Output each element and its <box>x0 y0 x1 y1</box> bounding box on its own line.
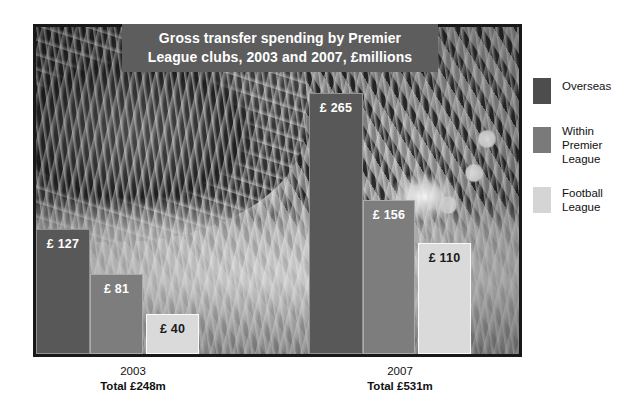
plot-area: £ 127 £ 81 £ 40 £ 265 £ 156 £ 110 <box>33 24 522 357</box>
bar-2007-overseas[interactable]: £ 265 <box>309 93 363 354</box>
chart-figure: £ 127 £ 81 £ 40 £ 265 £ 156 £ 110 Gross … <box>0 0 641 407</box>
legend-swatch-football-league <box>533 187 551 213</box>
bar-2007-football-league[interactable]: £ 110 <box>418 243 471 354</box>
bar-label-2003-within-premier-league: £ 81 <box>91 282 142 296</box>
legend-swatch-overseas <box>533 78 551 104</box>
legend: Overseas Within Premier League Football … <box>533 78 639 233</box>
legend-item-football-league[interactable]: Football League <box>533 185 639 214</box>
category-total-2003: Total £248m <box>43 379 223 394</box>
legend-label-within-premier-league: Within Premier League <box>562 123 602 166</box>
bar-2003-within-premier-league[interactable]: £ 81 <box>90 274 143 354</box>
bar-label-2007-overseas: £ 265 <box>310 101 362 115</box>
category-total-2007: Total £531m <box>310 379 490 394</box>
bar-label-2007-football-league: £ 110 <box>419 251 470 265</box>
category-label-2003: 2003 Total £248m <box>43 364 223 394</box>
chart-title-line-2: League clubs, 2003 and 2007, £millions <box>148 48 412 67</box>
legend-swatch-within-premier-league <box>533 127 551 153</box>
bar-label-2003-overseas: £ 127 <box>37 237 89 251</box>
legend-label-football-league: Football League <box>562 185 603 214</box>
category-year-2007: 2007 <box>310 364 490 379</box>
legend-item-overseas[interactable]: Overseas <box>533 78 639 104</box>
chart-title-line-1: Gross transfer spending by Premier <box>159 29 401 48</box>
bar-2003-football-league[interactable]: £ 40 <box>146 314 199 354</box>
chart-title: Gross transfer spending by Premier Leagu… <box>122 24 438 72</box>
legend-label-overseas: Overseas <box>562 78 611 93</box>
category-label-2007: 2007 Total £531m <box>310 364 490 394</box>
bar-label-2003-football-league: £ 40 <box>147 322 198 336</box>
bar-2007-within-premier-league[interactable]: £ 156 <box>363 200 415 354</box>
bar-2003-overseas[interactable]: £ 127 <box>36 229 90 354</box>
category-year-2003: 2003 <box>43 364 223 379</box>
legend-item-within-premier-league[interactable]: Within Premier League <box>533 123 639 166</box>
bar-label-2007-within-premier-league: £ 156 <box>364 208 414 222</box>
